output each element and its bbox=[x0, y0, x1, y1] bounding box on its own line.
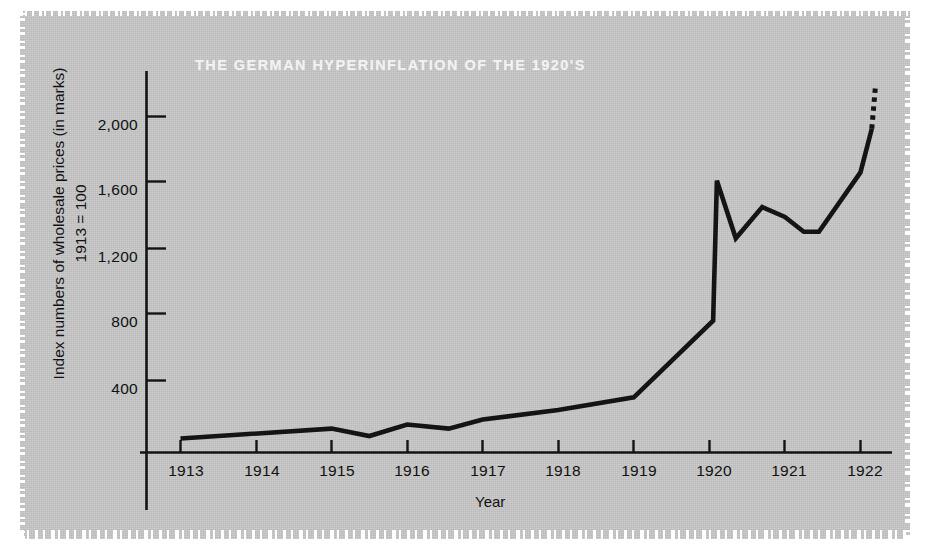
projected-continuation-line bbox=[872, 85, 876, 129]
y-axis-ticks bbox=[147, 117, 166, 381]
x-axis-ticks bbox=[181, 440, 861, 452]
price-index-line bbox=[181, 129, 872, 439]
figure-page: THE GERMAN HYPERINFLATION OF THE 1920'S … bbox=[0, 0, 927, 556]
chart-plate: THE GERMAN HYPERINFLATION OF THE 1920'S … bbox=[20, 11, 910, 539]
chart-plot-area bbox=[20, 11, 910, 539]
